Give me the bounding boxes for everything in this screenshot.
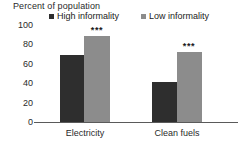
bar-electricity-high-informality[interactable] [60, 55, 84, 122]
bar-clean-fuels-low-informality[interactable] [177, 52, 202, 122]
legend-label-low-informality: Low informality [149, 12, 209, 21]
significance-marker-electricity: *** [91, 25, 103, 35]
bar-electricity-low-informality[interactable] [84, 36, 110, 122]
y-axis-tick-label: 60 [23, 59, 33, 69]
legend-item-high-informality[interactable]: High informality [49, 12, 119, 21]
legend-item-low-informality[interactable]: Low informality [141, 12, 209, 21]
chart-legend: High informality Low informality [49, 12, 209, 21]
x-axis-label-clean-fuels: Clean fuels [154, 128, 199, 138]
plot-area: *** *** [40, 25, 236, 122]
y-axis-tick-label: 80 [23, 39, 33, 49]
chart-container: Percent of population High informality L… [0, 0, 243, 147]
y-axis-tick-label: 20 [23, 98, 33, 108]
y-axis-tick-label: 100 [18, 20, 33, 30]
legend-label-high-informality: High informality [57, 12, 119, 21]
x-axis-label-electricity: Electricity [66, 128, 105, 138]
bar-clean-fuels-high-informality[interactable] [152, 82, 177, 122]
y-axis-tick-label: 0 [28, 117, 33, 127]
chart-title: Percent of population [13, 1, 100, 11]
legend-swatch-icon [49, 14, 54, 19]
legend-swatch-icon [141, 14, 146, 19]
significance-marker-clean-fuels: *** [183, 41, 195, 51]
y-axis: 100 80 60 40 20 0 [0, 25, 33, 122]
y-axis-tick-label: 40 [23, 78, 33, 88]
x-axis-baseline [38, 122, 238, 123]
